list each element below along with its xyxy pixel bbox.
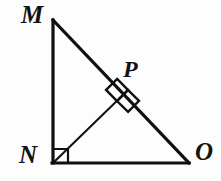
segment-NP-altitude — [54, 96, 122, 162]
vertex-label-O: O — [195, 139, 213, 164]
vertex-label-P: P — [123, 57, 138, 81]
segment-MO-hypotenuse — [53, 20, 189, 163]
geometry-figure: M N O P — [0, 0, 221, 181]
vertex-label-N: N — [19, 142, 37, 167]
vertex-label-M: M — [21, 2, 43, 27]
